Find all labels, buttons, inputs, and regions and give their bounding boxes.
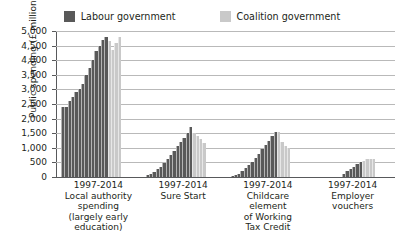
bar-chart: Labour government Coalition government P… bbox=[0, 0, 404, 246]
y-tick-label: 3,500 bbox=[21, 70, 47, 80]
x-axis-category-line: education) bbox=[56, 222, 141, 233]
legend-entry-labour: Labour government bbox=[64, 11, 176, 22]
bar-coalition bbox=[287, 148, 290, 177]
x-axis-category-line: of Working bbox=[226, 212, 311, 223]
y-tick-label: 2,000 bbox=[21, 114, 47, 124]
x-axis-labels: 1997-2014Local authorityspending(largely… bbox=[56, 180, 395, 244]
y-tick-label: 0 bbox=[41, 172, 47, 182]
x-axis-category-label: 1997-2014Employervouchers bbox=[310, 180, 395, 212]
plot-area bbox=[56, 31, 395, 177]
y-axis-ticks: 05001,0001,5002,0002,5003,0003,5004,0004… bbox=[0, 31, 52, 177]
y-tick-label: 1,000 bbox=[21, 143, 47, 153]
x-axis-category-line: Local authority bbox=[56, 191, 141, 202]
x-axis-category-label: 1997-2014Childcareelementof WorkingTax C… bbox=[226, 180, 311, 233]
legend-label-labour: Labour government bbox=[81, 11, 176, 22]
bar-coalition bbox=[118, 37, 121, 177]
x-axis-category-line: Employer bbox=[310, 191, 395, 202]
legend-swatch-labour bbox=[64, 11, 75, 22]
x-axis-category-line: vouchers bbox=[310, 201, 395, 212]
chart-legend: Labour government Coalition government bbox=[0, 6, 404, 26]
bar-group bbox=[315, 31, 375, 177]
y-tick-label: 4,500 bbox=[21, 41, 47, 51]
x-axis-period: 1997-2014 bbox=[141, 180, 226, 191]
bar-group bbox=[61, 31, 121, 177]
y-tick-label: 500 bbox=[30, 157, 47, 167]
bars-layer bbox=[56, 31, 395, 177]
y-tick-label: 2,500 bbox=[21, 99, 47, 109]
x-axis-category-line: Tax Credit bbox=[226, 222, 311, 233]
x-axis-category-line: (largely early bbox=[56, 212, 141, 223]
x-axis-category-line: Childcare bbox=[226, 191, 311, 202]
x-axis-category-line: spending bbox=[56, 201, 141, 212]
legend-label-coalition: Coalition government bbox=[237, 11, 341, 22]
x-axis-category-line: Sure Start bbox=[141, 191, 226, 202]
x-axis-category-label: 1997-2014Sure Start bbox=[141, 180, 226, 201]
bar-group bbox=[231, 31, 291, 177]
bar-coalition bbox=[202, 143, 205, 177]
y-tick-label: 4,000 bbox=[21, 55, 47, 65]
legend-swatch-coalition bbox=[220, 11, 231, 22]
x-axis-period: 1997-2014 bbox=[226, 180, 311, 191]
y-tick-label: 3,000 bbox=[21, 84, 47, 94]
x-axis-period: 1997-2014 bbox=[56, 180, 141, 191]
legend-entry-coalition: Coalition government bbox=[220, 11, 341, 22]
x-axis-line bbox=[56, 177, 395, 178]
y-tick-label: 5,000 bbox=[21, 26, 47, 36]
y-tick-label: 1,500 bbox=[21, 128, 47, 138]
x-axis-period: 1997-2014 bbox=[310, 180, 395, 191]
bar-coalition bbox=[372, 159, 375, 177]
x-axis-category-line: element bbox=[226, 201, 311, 212]
x-axis-category-label: 1997-2014Local authorityspending(largely… bbox=[56, 180, 141, 233]
bar-group bbox=[146, 31, 206, 177]
